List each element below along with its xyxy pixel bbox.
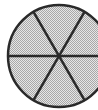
wheel-icon xyxy=(0,0,98,110)
